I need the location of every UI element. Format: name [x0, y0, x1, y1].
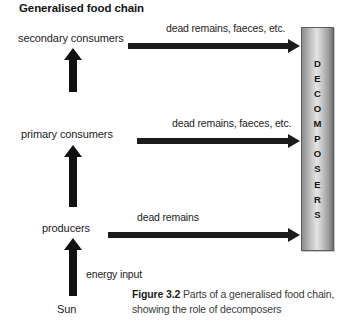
arrow-shaft [108, 232, 289, 238]
decomposer-letter: E [314, 74, 320, 84]
decomposer-letter: S [314, 210, 320, 220]
decomposer-letter: E [314, 180, 320, 190]
flow-note-energy-input: energy input [86, 268, 142, 280]
level-label-secondary-consumers: secondary consumers [18, 32, 124, 44]
flow-note-primary-dead-remains: dead remains, faeces, etc. [172, 117, 291, 129]
arrow-shaft [69, 58, 77, 92]
level-label-primary-consumers: primary consumers [21, 128, 113, 140]
decomposer-letter: M [314, 119, 322, 129]
arrow-right-icon-primary-to-decomposers [137, 134, 300, 148]
arrow-head [288, 39, 300, 53]
figure-caption: Figure 3.2 Parts of a generalised food c… [132, 287, 346, 317]
decomposers-column: D E C O M P O S E R S [301, 27, 334, 251]
decomposer-letter: O [314, 104, 321, 114]
page-title: Generalised food chain [19, 2, 144, 14]
arrow-up-icon-producers-to-secondary [64, 48, 82, 92]
diagram-canvas: Generalised food chain secondary consume… [0, 0, 349, 329]
decomposer-letter: O [314, 149, 321, 159]
arrow-shaft [69, 155, 77, 207]
arrow-head [288, 228, 300, 242]
level-label-sun: Sun [57, 303, 76, 315]
flow-note-producers-dead-remains: dead remains [137, 211, 199, 223]
arrow-up-icon-to-primary-consumers [64, 145, 82, 207]
arrow-shaft [128, 43, 289, 49]
arrow-shaft [137, 138, 289, 144]
arrow-right-icon-producers-to-decomposers [108, 228, 300, 242]
arrow-up-icon-sun-to-producers [64, 238, 82, 296]
decomposer-letter: S [314, 164, 320, 174]
arrow-head [288, 134, 300, 148]
decomposer-letter: P [314, 134, 320, 144]
decomposer-letter: R [314, 195, 321, 205]
arrow-shaft [69, 248, 77, 296]
decomposer-letter: D [314, 59, 321, 69]
decomposer-letter: C [314, 89, 321, 99]
figure-caption-number: Figure 3.2 [132, 288, 180, 300]
arrow-right-icon-secondary-to-decomposers [128, 39, 300, 53]
level-label-producers: producers [42, 222, 90, 234]
decomposers-label: D E C O M P O S E R S [302, 28, 333, 250]
flow-note-secondary-dead-remains: dead remains, faeces, etc. [166, 22, 285, 34]
